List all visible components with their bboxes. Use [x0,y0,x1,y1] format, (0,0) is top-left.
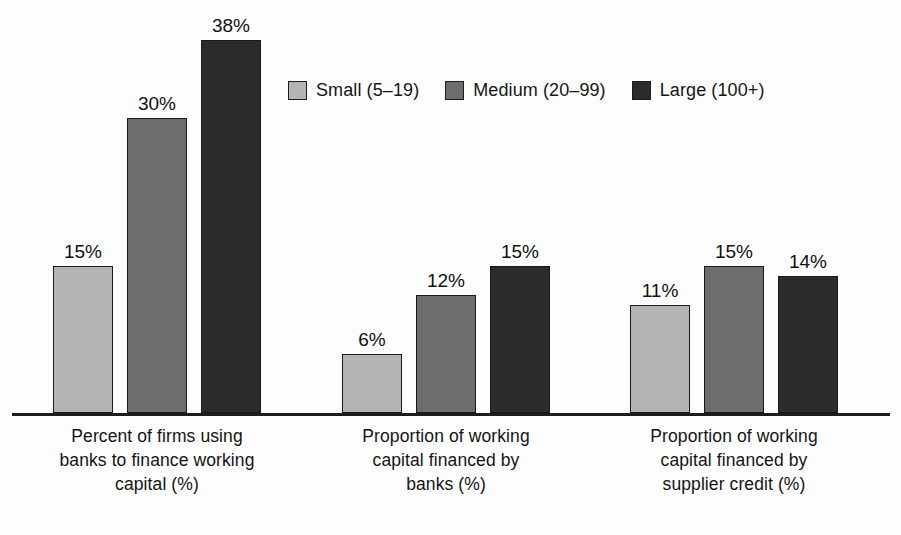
bar[interactable]: 15% [704,266,764,413]
category-label-line: banks to finance working [7,448,307,472]
category-label-line: Proportion of working [296,424,596,448]
bar-value-label: 38% [212,15,250,36]
bar[interactable]: 38% [201,40,261,413]
bar[interactable]: 30% [127,118,187,413]
bar-value-label: 30% [138,93,176,114]
bar-value-label: 15% [64,241,102,262]
legend-item[interactable]: Large (100+) [632,80,765,100]
legend-item-label: Small (5–19) [316,80,419,100]
category-label: Proportion of workingcapital financed by… [584,424,884,496]
category-label-line: supplier credit (%) [584,472,884,496]
category-label-line: banks (%) [296,472,596,496]
category-label-line: capital (%) [7,472,307,496]
bar-value-label: 6% [358,329,385,350]
legend-swatch-large [632,81,651,100]
category-label-line: capital financed by [296,448,596,472]
legend-swatch-small [288,81,307,100]
bar[interactable]: 14% [778,276,838,413]
bar[interactable]: 15% [490,266,550,413]
x-axis-baseline [12,413,890,416]
category-label-line: Percent of firms using [7,424,307,448]
bar[interactable]: 12% [416,295,476,413]
legend-swatch-medium [445,81,464,100]
bar[interactable]: 15% [53,266,113,413]
legend-item[interactable]: Small (5–19) [288,80,419,100]
bar[interactable]: 11% [630,305,690,413]
category-label: Percent of firms usingbanks to finance w… [7,424,307,496]
legend-item[interactable]: Medium (20–99) [445,80,605,100]
bar[interactable]: 6% [342,354,402,413]
category-label-line: Proportion of working [584,424,884,448]
category-label-line: capital financed by [584,448,884,472]
legend-item-label: Medium (20–99) [473,80,605,100]
bar-value-label: 11% [642,280,679,301]
bar-value-label: 15% [501,241,539,262]
chart-legend: Small (5–19)Medium (20–99)Large (100+) [288,80,765,100]
bar-value-label: 12% [427,270,465,291]
plot-area: 15%30%38%6%12%15%11%15%14% [0,0,901,420]
category-labels: Percent of firms usingbanks to finance w… [0,424,901,524]
bar-chart: Small (5–19)Medium (20–99)Large (100+) 1… [0,0,901,535]
bar-value-label: 14% [789,251,827,272]
legend-item-label: Large (100+) [660,80,765,100]
category-label: Proportion of workingcapital financed by… [296,424,596,496]
bar-value-label: 15% [715,241,753,262]
